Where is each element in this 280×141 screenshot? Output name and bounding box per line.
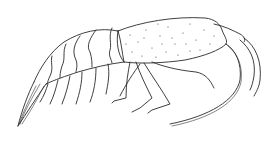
stipple (125, 23, 214, 57)
head-antennae (170, 24, 260, 126)
shrimp-illustration: Lateral view line illustration of a shri… (0, 0, 280, 141)
walking-legs (112, 62, 214, 113)
abdomen (34, 28, 124, 84)
shrimp-drawing (0, 0, 280, 141)
swimmerets (40, 64, 109, 104)
carapace (117, 18, 226, 63)
tail-fan (18, 82, 46, 126)
